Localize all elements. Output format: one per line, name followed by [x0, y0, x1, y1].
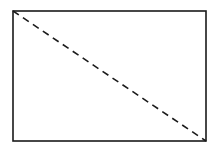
diagram-canvas: [0, 0, 219, 150]
dashed-diagonal-line: [13, 11, 206, 141]
